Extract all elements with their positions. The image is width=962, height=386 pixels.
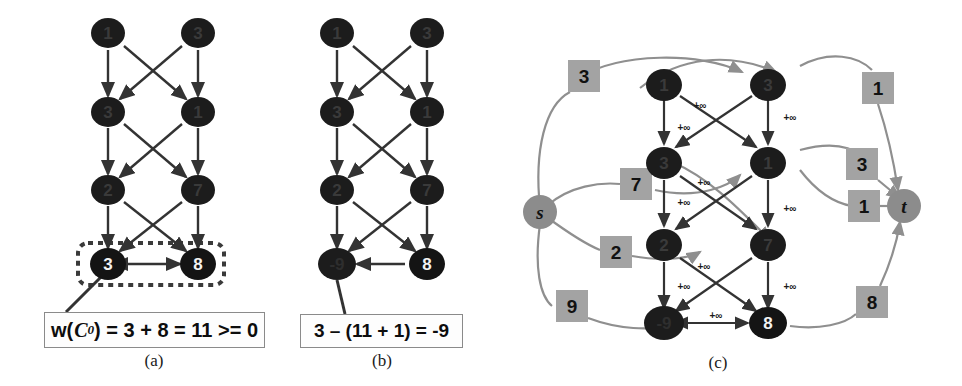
edge-a2-a3 <box>120 46 182 99</box>
edge-s-cap2 <box>548 184 620 205</box>
edge-a4-a5 <box>120 124 182 177</box>
edge-a5-a8 <box>124 202 186 251</box>
formula-a-suffix: ) = 3 + 8 = 11 >= 0 <box>94 319 258 342</box>
node-c2-label: 3 <box>763 76 772 95</box>
capacity-box-t-3-label: 1 <box>859 196 870 217</box>
node-sink-t-label: t <box>901 196 907 217</box>
node-c8-label: 8 <box>763 314 772 333</box>
capacity-box-s-1-label: 3 <box>579 66 590 87</box>
formula-pointer-b <box>337 280 345 314</box>
node-a5-label: 2 <box>103 181 112 200</box>
capacity-box-t-1-label: 1 <box>873 78 884 99</box>
node-c4-label: 1 <box>763 154 772 173</box>
node-c3-label: 3 <box>659 154 668 173</box>
node-c5-label: 2 <box>659 236 668 255</box>
edge-label-inf-10: +∞ <box>710 310 723 321</box>
edge-label-inf-6: +∞ <box>784 203 797 214</box>
node-a8-label: 8 <box>193 255 202 274</box>
edge-s-cap1 <box>538 92 570 208</box>
node-a1-label: 1 <box>103 24 112 43</box>
edge-label-inf-9: +∞ <box>784 281 797 292</box>
node-b7-label: -9 <box>329 255 344 274</box>
formula-a-var: C <box>73 319 87 342</box>
edge-label-inf-8: +∞ <box>678 281 691 292</box>
panel-b-letter: (b) <box>372 351 392 370</box>
edge-b5-b8 <box>353 202 415 251</box>
edge-c2-cap-t1 <box>800 56 872 70</box>
edge-s-cap4 <box>538 224 552 306</box>
edge-cap-t1-t <box>878 104 898 190</box>
edge-label-inf-2: +∞ <box>678 122 691 133</box>
node-b2-label: 3 <box>422 24 431 43</box>
edge-c4-cap-t3 <box>800 170 852 206</box>
edge-label-inf-1: +∞ <box>694 100 707 111</box>
node-b1-label: 1 <box>332 24 341 43</box>
node-a2-label: 3 <box>193 24 202 43</box>
formula-box-a: w(C0) = 3 + 8 = 11 >= 0 <box>44 312 265 348</box>
edge-c5-c8 <box>680 258 756 311</box>
node-source-s-label: s <box>535 202 543 223</box>
edge-a1-a4 <box>124 46 186 99</box>
edge-c3-c6 <box>680 176 756 229</box>
node-a3-label: 3 <box>103 103 112 122</box>
node-c6-label: 7 <box>763 236 772 255</box>
node-a6-label: 7 <box>193 181 202 200</box>
capacity-box-s-3-label: 2 <box>611 242 622 263</box>
formula-box-b: 3 – (11 + 1) = -9 <box>300 314 463 348</box>
capacity-box-s-4-label: 9 <box>567 296 578 317</box>
edge-b2-b3 <box>349 46 411 99</box>
edge-cap-t4-t <box>880 222 900 286</box>
edge-s-cap3 <box>548 218 600 250</box>
edge-label-inf-5: +∞ <box>678 197 691 208</box>
panel-c-letter: (c) <box>709 353 728 372</box>
panel-c: +∞ +∞ +∞ +∞ +∞ +∞ +∞ +∞ +∞ +∞ 3 7 2 9 1 … <box>523 56 921 371</box>
edge-label-inf-3: +∞ <box>784 112 797 123</box>
formula-a-prefix: w( <box>51 319 73 342</box>
node-a7-label: 3 <box>103 255 112 274</box>
formula-a-subscript: 0 <box>87 322 94 338</box>
capacity-box-t-2-label: 3 <box>857 154 868 175</box>
capacity-box-s-2-label: 7 <box>631 174 642 195</box>
edge-b6-b7 <box>349 202 411 251</box>
node-c7-label: -9 <box>656 314 671 333</box>
capacity-box-t-4-label: 8 <box>867 292 878 313</box>
edge-b4-b5 <box>349 124 411 177</box>
figure-container: 1 3 3 1 2 7 3 8 (a) <box>0 0 962 386</box>
node-b8-label: 8 <box>422 255 431 274</box>
node-b5-label: 2 <box>332 181 341 200</box>
node-c1-label: 1 <box>659 76 668 95</box>
edge-label-inf-7: +∞ <box>698 261 711 272</box>
edge-b1-b4 <box>353 46 415 99</box>
node-b3-label: 3 <box>332 103 341 122</box>
edge-c1-c4 <box>680 96 756 147</box>
node-a4-label: 1 <box>193 103 202 122</box>
edge-a3-a6 <box>124 124 186 177</box>
edge-b3-b6 <box>353 124 415 177</box>
node-b4-label: 1 <box>422 103 431 122</box>
edge-label-inf-4: +∞ <box>698 177 711 188</box>
panel-a-letter: (a) <box>145 351 164 370</box>
edge-c8-cap-t4 <box>790 314 856 327</box>
node-b6-label: 7 <box>422 181 431 200</box>
